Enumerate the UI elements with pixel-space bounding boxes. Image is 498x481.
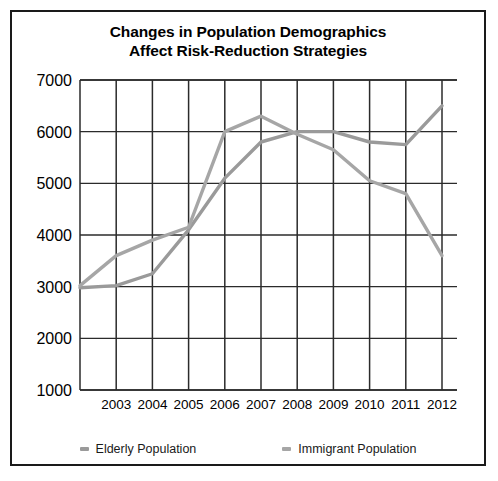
y-axis-tick-label: 7000 [36, 72, 72, 89]
y-axis-tick-label: 4000 [36, 227, 72, 244]
legend-swatch-icon-immigrant [282, 447, 291, 451]
legend-swatch-icon-elderly [80, 447, 89, 451]
x-axis-tick-label: 2003 [101, 397, 131, 412]
y-axis-tick-label: 5000 [36, 175, 72, 192]
x-axis-tick-label: 2008 [282, 397, 312, 412]
chart-legend: Elderly Population Immigrant Population [12, 442, 484, 456]
x-axis-tick-label: 2004 [137, 397, 168, 412]
x-axis-tick-label: 2006 [210, 397, 240, 412]
y-axis-tick-label: 3000 [36, 279, 72, 296]
x-axis-tick-label: 2011 [391, 397, 420, 412]
x-axis-tick-label: 2009 [318, 397, 348, 412]
x-axis-tick-label: 2012 [427, 397, 457, 412]
line-chart-plot: 1000200030004000500060007000200320042005… [2, 2, 498, 481]
y-axis-tick-label: 2000 [36, 330, 72, 347]
x-axis-tick-label: 2007 [246, 397, 276, 412]
y-axis-tick-label: 6000 [36, 124, 72, 141]
legend-label-immigrant: Immigrant Population [298, 442, 416, 456]
legend-label-elderly: Elderly Population [96, 442, 197, 456]
x-axis-tick-label: 2005 [174, 397, 204, 412]
legend-item-immigrant-population[interactable]: Immigrant Population [282, 442, 416, 456]
legend-item-elderly-population[interactable]: Elderly Population [80, 442, 197, 456]
chart-card: Changes in Population Demographics Affec… [10, 10, 486, 466]
x-axis-tick-label: 2010 [355, 397, 385, 412]
y-axis-tick-label: 1000 [36, 382, 72, 399]
